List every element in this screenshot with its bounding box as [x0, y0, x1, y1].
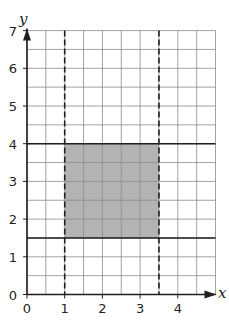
coordinate-grid-chart: 0123401234567 x y	[0, 0, 229, 320]
y-tick-label: 3	[9, 174, 17, 189]
y-tick-label: 0	[9, 288, 17, 303]
y-tick-label: 4	[9, 137, 17, 152]
y-tick-label: 7	[9, 24, 17, 39]
shaded-rectangle	[65, 144, 159, 238]
grid-lines	[27, 31, 216, 295]
x-tick-label: 4	[174, 301, 182, 316]
y-axis-label: y	[18, 10, 28, 28]
y-tick-label: 5	[9, 99, 17, 114]
x-tick-label: 2	[98, 301, 106, 316]
shaded-region	[65, 144, 159, 238]
x-axis-label: x	[218, 284, 227, 302]
y-tick-label: 1	[9, 250, 17, 265]
y-tick-label: 6	[9, 61, 17, 76]
y-tick-label: 2	[9, 212, 17, 227]
x-tick-label: 1	[61, 301, 69, 316]
x-tick-label: 0	[23, 301, 31, 316]
x-axis-arrow-icon	[205, 291, 217, 299]
x-tick-label: 3	[136, 301, 144, 316]
